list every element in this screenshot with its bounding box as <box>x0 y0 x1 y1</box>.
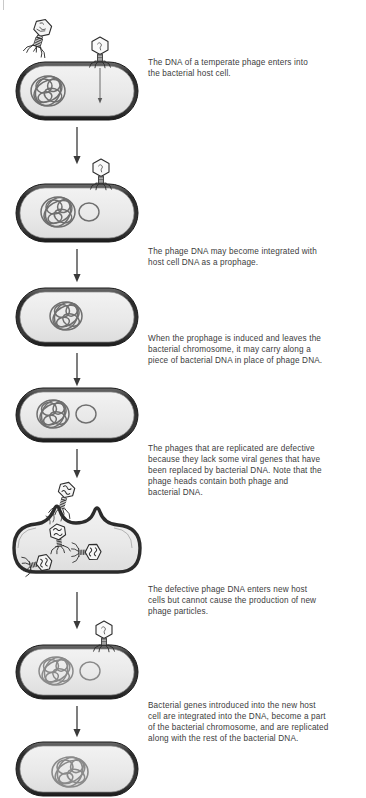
caption-defective-phages: The phages that are replicated are defec… <box>148 443 364 498</box>
bacterium-cell-2 <box>16 184 138 242</box>
stage-6-group <box>16 621 138 699</box>
internal-phage-icon-a <box>47 523 71 555</box>
diagram-artwork <box>0 0 366 798</box>
stage-3-group <box>16 288 138 346</box>
excised-dna-circle-4 <box>76 405 96 423</box>
internal-phage-icon-c <box>71 542 101 563</box>
bacterial-chromosome-7 <box>51 753 89 790</box>
bacterium-cell-1 <box>16 62 138 120</box>
attached-phage-icon-2 <box>91 159 112 190</box>
stage-1-group <box>16 16 138 120</box>
phage-dna-circle-2 <box>79 203 99 221</box>
caption-prophage-integration: The phage DNA may become integrated with… <box>148 246 364 268</box>
bacterium-cell-3 <box>16 288 138 346</box>
free-phage-icon <box>23 16 56 58</box>
lysing-bacterium-cell <box>14 506 140 572</box>
page-edge-tick <box>3 0 4 10</box>
released-phage-icon <box>49 479 80 519</box>
caption-prophage-induced: When the prophage is induced and leaves … <box>148 333 364 366</box>
caption-phage-dna-enters: The DNA of a temperate phage enters into… <box>148 57 364 79</box>
caption-bacterial-genes-integrated: Bacterial genes introduced into the new … <box>148 700 364 744</box>
internal-phage-icon-b <box>21 551 54 576</box>
attached-phage-icon-6 <box>94 621 115 652</box>
stage-2-group <box>16 159 138 242</box>
stage-7-group <box>16 742 138 796</box>
stage-4-group <box>16 388 138 442</box>
bacterial-chromosome-2 <box>40 193 76 230</box>
bacterial-chromosome-1 <box>30 72 66 109</box>
bacterium-cell-7 <box>16 742 138 796</box>
phage-debris <box>46 510 62 524</box>
bacterium-cell-6 <box>16 645 138 699</box>
bacterial-chromosome-4 <box>36 397 70 432</box>
transduction-diagram: The DNA of a temperate phage enters into… <box>0 0 366 798</box>
stage-5-group <box>14 479 140 576</box>
bacterial-chromosome-3 <box>49 299 83 334</box>
bacterial-chromosome-6 <box>38 654 73 689</box>
bacterium-cell-4 <box>16 388 138 442</box>
caption-defective-dna-enters: The defective phage DNA enters new host … <box>148 584 364 617</box>
transduced-dna-circle-6 <box>80 662 100 680</box>
attached-phage-icon-1 <box>90 37 111 68</box>
